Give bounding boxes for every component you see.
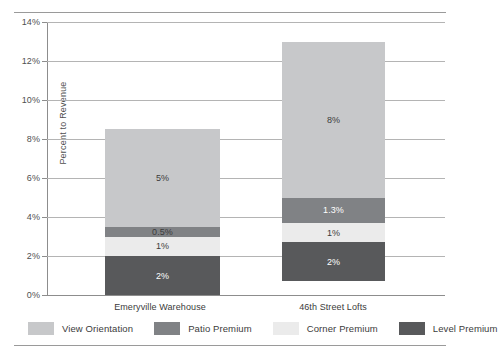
- ytick-mark-0: [42, 295, 47, 296]
- ytick-label-10: 10%: [6, 96, 40, 105]
- legend-label-corner-premium: Corner Premium: [307, 323, 378, 334]
- legend-label-level-premium: Level Premium: [433, 323, 498, 334]
- segment-patio-premium[interactable]: 1.3%: [282, 198, 385, 223]
- y-axis-title: Percent to Revenue: [58, 63, 68, 183]
- bottom-divider: [14, 345, 446, 346]
- segment-corner-premium[interactable]: 1%: [282, 223, 385, 243]
- category-label-46th-street-lofts: 46th Street Lofts: [233, 302, 433, 312]
- segment-level-premium[interactable]: 2%: [105, 256, 220, 295]
- legend-swatch-corner-premium: [273, 322, 299, 335]
- gridline-0: [47, 295, 445, 296]
- segment-level-premium[interactable]: 2%: [282, 242, 385, 281]
- ytick-mark-4: [42, 217, 47, 218]
- ytick-label-8: 8%: [6, 135, 40, 144]
- segment-view-orientation[interactable]: 8%: [282, 42, 385, 198]
- ytick-mark-8: [42, 139, 47, 140]
- ytick-label-4: 4%: [6, 213, 40, 222]
- gridline-14: [47, 22, 445, 23]
- gridline-12: [47, 61, 445, 62]
- ytick-mark-2: [42, 256, 47, 257]
- legend-swatch-patio-premium: [154, 322, 180, 335]
- ytick-label-12: 12%: [6, 57, 40, 66]
- ytick-mark-10: [42, 100, 47, 101]
- ytick-label-14: 14%: [6, 18, 40, 27]
- bar-emeryville-warehouse[interactable]: 5% 0.5% 1% 2%: [105, 129, 220, 295]
- bar-46th-street-lofts[interactable]: 8% 1.3% 1% 2%: [282, 42, 385, 296]
- legend-label-view-orientation: View Orientation: [62, 323, 133, 334]
- legend-item-corner-premium[interactable]: Corner Premium: [273, 322, 378, 335]
- stacked-bar-chart: 14% 12% 10% 8% 6% 4% 2% 0% Percent to Re…: [0, 0, 458, 310]
- legend-item-level-premium[interactable]: Level Premium: [399, 322, 498, 335]
- legend-swatch-view-orientation: [28, 322, 54, 335]
- chart-legend: View Orientation Patio Premium Corner Pr…: [0, 318, 458, 338]
- legend-item-patio-premium[interactable]: Patio Premium: [154, 322, 252, 335]
- legend-swatch-level-premium: [399, 322, 425, 335]
- legend-item-view-orientation[interactable]: View Orientation: [28, 322, 133, 335]
- ytick-mark-14: [42, 22, 47, 23]
- ytick-label-6: 6%: [6, 174, 40, 183]
- plot-area: Percent to Revenue 5% 0.5% 1% 2%: [47, 22, 445, 295]
- category-label-emeryville-warehouse: Emeryville Warehouse: [60, 302, 260, 312]
- segment-view-orientation[interactable]: 5%: [105, 129, 220, 227]
- ytick-mark-12: [42, 61, 47, 62]
- segment-patio-premium[interactable]: 0.5%: [105, 227, 220, 237]
- ytick-label-2: 2%: [6, 252, 40, 261]
- ytick-label-0: 0%: [6, 291, 40, 300]
- ytick-mark-6: [42, 178, 47, 179]
- segment-corner-premium[interactable]: 1%: [105, 237, 220, 257]
- legend-label-patio-premium: Patio Premium: [188, 323, 252, 334]
- gridline-10: [47, 100, 445, 101]
